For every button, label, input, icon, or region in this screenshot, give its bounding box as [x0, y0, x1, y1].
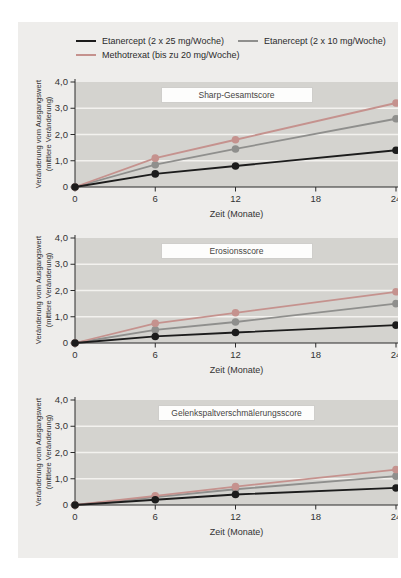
x-tick-label: 6 [153, 193, 158, 204]
y-tick-label: 0 [63, 337, 68, 348]
y-tick-label: 2,0 [55, 447, 68, 458]
legend: Etanercept (2 x 25 mg/Woche) Etanercept … [76, 36, 386, 64]
data-point [71, 339, 79, 347]
data-point [232, 162, 240, 170]
y-tick-label: 1,0 [55, 311, 68, 322]
chart-erosionsscore: Veränderung vom Ausgangswert (mittlere V… [18, 228, 398, 386]
y-tick-label: 3,0 [55, 102, 68, 113]
x-axis-title: Zeit (Monate) [75, 209, 398, 219]
y-tick-label: 1,0 [55, 473, 68, 484]
chart-title: Sharp-Gesamtscore [75, 87, 398, 103]
x-tick-label: 24 [391, 511, 398, 522]
legend-row-1: Etanercept (2 x 25 mg/Woche) Etanercept … [76, 36, 386, 46]
x-tick-label: 18 [310, 349, 321, 360]
x-tick-label: 24 [391, 349, 398, 360]
x-axis-title: Zeit (Monate) [75, 365, 398, 375]
x-tick-label: 24 [391, 193, 398, 204]
x-tick-label: 12 [230, 193, 241, 204]
y-tick-label: 2,0 [55, 129, 68, 140]
data-point [71, 183, 79, 191]
data-point [232, 145, 240, 153]
data-point [151, 333, 159, 341]
data-point [71, 501, 79, 509]
data-point [232, 491, 240, 499]
x-tick-label: 0 [72, 511, 77, 522]
data-point [151, 154, 159, 162]
y-tick-label: 3,0 [55, 258, 68, 269]
x-tick-label: 6 [153, 511, 158, 522]
y-tick-label: 4,0 [55, 232, 68, 243]
x-tick-label: 6 [153, 349, 158, 360]
figure-panel: Etanercept (2 x 25 mg/Woche) Etanercept … [18, 22, 398, 558]
chart-title: Erosionsscore [75, 243, 398, 259]
data-point [232, 318, 240, 326]
data-point [232, 483, 240, 491]
y-tick-label: 2,0 [55, 285, 68, 296]
chart-gelenkspaltverschmaelerungsscore: Veränderung vom Ausgangswert (mittlere V… [18, 390, 398, 548]
data-point [151, 320, 159, 328]
data-point [151, 170, 159, 178]
line-swatch-icon [76, 40, 96, 42]
x-tick-label: 12 [230, 349, 241, 360]
data-point [151, 496, 159, 504]
x-axis-title: Zeit (Monate) [75, 527, 398, 537]
y-tick-label: 4,0 [55, 76, 68, 87]
line-swatch-icon [238, 40, 258, 42]
data-point [151, 161, 159, 169]
data-point [151, 326, 159, 334]
y-tick-label: 0 [63, 181, 68, 192]
x-tick-label: 0 [72, 349, 77, 360]
x-tick-label: 18 [310, 193, 321, 204]
legend-label: Methotrexat (bis zu 20 mg/Woche) [102, 50, 239, 60]
data-point [232, 136, 240, 144]
chart-title: Gelenkspaltverschmälerungsscore [75, 405, 398, 421]
legend-label: Etanercept (2 x 25 mg/Woche) [102, 36, 224, 46]
y-tick-label: 3,0 [55, 420, 68, 431]
x-tick-label: 18 [310, 511, 321, 522]
x-tick-label: 12 [230, 511, 241, 522]
chart-sharp-gesamtscore: Veränderung vom Ausgangswert (mittlere V… [18, 72, 398, 230]
y-tick-label: 4,0 [55, 394, 68, 405]
x-tick-label: 0 [72, 193, 77, 204]
legend-row-2: Methotrexat (bis zu 20 mg/Woche) [76, 50, 386, 60]
legend-item-etanercept-10: Etanercept (2 x 10 mg/Woche) [238, 36, 386, 46]
data-point [232, 309, 240, 317]
data-point [232, 329, 240, 337]
legend-label: Etanercept (2 x 10 mg/Woche) [264, 36, 386, 46]
line-swatch-icon [76, 54, 96, 56]
legend-item-etanercept-25: Etanercept (2 x 25 mg/Woche) [76, 36, 224, 46]
y-tick-label: 0 [63, 499, 68, 510]
legend-item-methotrexat: Methotrexat (bis zu 20 mg/Woche) [76, 50, 239, 60]
y-tick-label: 1,0 [55, 155, 68, 166]
